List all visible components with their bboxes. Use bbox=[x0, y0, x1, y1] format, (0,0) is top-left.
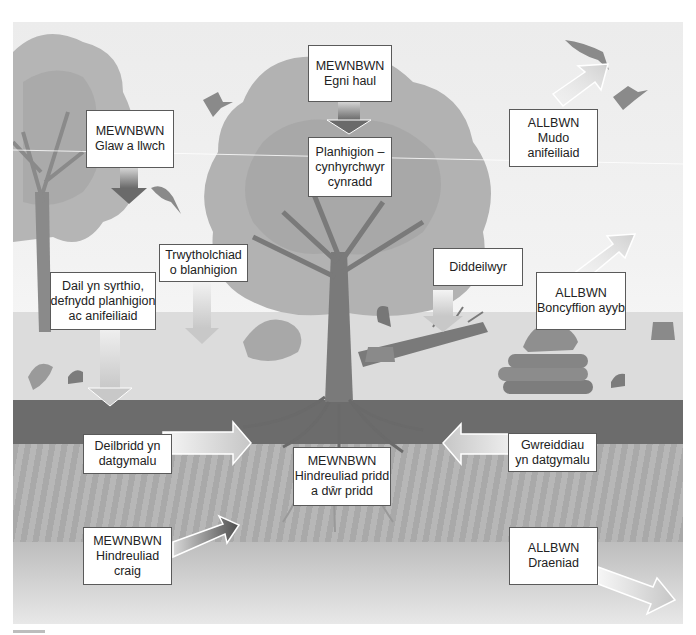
label-text: Gwreiddiau bbox=[521, 438, 584, 453]
arrow-mudo-up-icon bbox=[553, 64, 608, 106]
label-planhigion: Planhigion – cynhyrchwyr cynradd bbox=[308, 137, 392, 197]
label-mudo-anifeiliaid: ALLBWN Mudo anifeiliaid bbox=[509, 109, 598, 167]
nutrient-cycle-diagram: MEWNBWN Glaw a llwch MEWNBWN Egni haul P… bbox=[13, 22, 683, 624]
label-text: MEWNBWN bbox=[96, 124, 165, 139]
label-text: Hindreuliad pridd bbox=[295, 469, 390, 484]
arrow-hindreuliad-craig-icon bbox=[173, 516, 239, 557]
label-deilbridd: Deilbridd yn datgymalu bbox=[83, 434, 172, 474]
page-marker bbox=[13, 630, 45, 633]
label-text: o blanhigion bbox=[170, 263, 237, 278]
label-hindreuliad-pridd: MEWNBWN Hindreuliad pridd a dŵr pridd bbox=[293, 447, 391, 506]
arrow-trwytholchiad-down-icon bbox=[185, 280, 219, 344]
label-text: Draeniad bbox=[528, 556, 579, 571]
label-hindreuliad-craig: MEWNBWN Hindreuliad craig bbox=[83, 527, 172, 585]
arrow-deilbridd-right-icon bbox=[163, 422, 251, 464]
label-text: cynradd bbox=[328, 175, 372, 190]
label-text: defnydd planhigion bbox=[51, 294, 156, 309]
bird-icon bbox=[613, 86, 648, 110]
label-text: Mudo bbox=[538, 131, 569, 146]
arrow-dail-down-icon bbox=[88, 322, 132, 406]
fern-icon bbox=[28, 364, 53, 390]
label-glaw-a-llwch: MEWNBWN Glaw a llwch bbox=[86, 110, 174, 168]
label-egni-haul: MEWNBWN Egni haul bbox=[308, 45, 392, 102]
label-text: Boncyffion ayyb bbox=[537, 301, 625, 316]
bush-icon bbox=[243, 320, 301, 362]
tree-stump-icon bbox=[365, 347, 395, 362]
label-text: ac anifeiliaid bbox=[69, 309, 138, 324]
label-text: Deilbridd yn bbox=[94, 439, 160, 454]
label-text: cynhyrchwyr bbox=[315, 160, 384, 175]
label-text: MEWNBWN bbox=[316, 59, 385, 74]
label-gwreiddiau: Gwreiddiau yn datgymalu bbox=[508, 433, 597, 472]
label-text: ALLBWN bbox=[528, 116, 579, 131]
label-text: ALLBWN bbox=[528, 541, 579, 556]
log-pile-icon bbox=[498, 354, 593, 394]
label-text: Dail yn syrthio, bbox=[62, 279, 144, 294]
label-diddeilwyr: Diddeilwyr bbox=[433, 248, 523, 286]
label-boncyffion: ALLBWN Boncyffion ayyb bbox=[536, 272, 626, 330]
label-text: datgymalu bbox=[99, 454, 157, 469]
label-text: Glaw a llwch bbox=[95, 139, 165, 154]
label-text: craig bbox=[114, 564, 141, 579]
label-trwytholchiad: Trwytholchiad o blanhigion bbox=[159, 244, 248, 282]
rabbit-icon bbox=[68, 370, 83, 384]
arrow-draeniad-right-icon bbox=[598, 567, 675, 614]
rabbit-icon bbox=[611, 374, 625, 388]
label-text: Hindreuliad bbox=[96, 549, 159, 564]
label-text: anifeiliaid bbox=[527, 146, 579, 161]
label-text: Planhigion – bbox=[316, 145, 385, 160]
label-text: Trwytholchiad bbox=[165, 248, 242, 263]
label-text: Diddeilwyr bbox=[449, 260, 507, 275]
label-text: MEWNBWN bbox=[308, 454, 377, 469]
label-text: MEWNBWN bbox=[93, 534, 162, 549]
bird-icon bbox=[203, 92, 233, 117]
tree-stump-icon bbox=[651, 322, 675, 340]
label-dail-yn-syrthio: Dail yn syrthio, defnydd planhigion ac a… bbox=[50, 272, 156, 330]
label-text: Egni haul bbox=[324, 74, 376, 89]
label-text: a dŵr pridd bbox=[311, 484, 373, 499]
label-text: ALLBWN bbox=[555, 286, 606, 301]
label-draeniad: ALLBWN Draeniad bbox=[509, 527, 598, 585]
label-text: yn datgymalu bbox=[515, 453, 589, 468]
bird-icon bbox=[151, 186, 181, 214]
